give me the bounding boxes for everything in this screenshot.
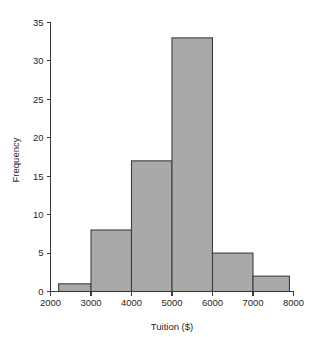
x-tick-label: 2000 — [40, 297, 61, 308]
y-tick-label: 35 — [33, 17, 44, 28]
x-tick-label: 3000 — [80, 297, 101, 308]
y-tick-label: 5 — [38, 247, 43, 258]
histogram-bar — [91, 230, 132, 291]
x-tick-label: 4000 — [121, 297, 142, 308]
y-tick-label: 25 — [33, 94, 44, 105]
histogram-bar — [172, 38, 213, 292]
y-axis-ticks: 05101520253035 — [33, 17, 51, 297]
x-axis-label: Tuition ($) — [151, 321, 193, 332]
y-tick-label: 10 — [33, 209, 44, 220]
histogram-bar — [132, 161, 173, 292]
bars-group — [59, 38, 290, 292]
x-tick-label: 6000 — [202, 297, 223, 308]
y-tick-label: 30 — [33, 55, 44, 66]
histogram-bar — [253, 276, 289, 291]
y-axis-label: Frequency — [10, 137, 21, 182]
histogram-chart: 05101520253035 2000300040005000600070008… — [0, 0, 315, 337]
chart-canvas: 05101520253035 2000300040005000600070008… — [0, 0, 315, 337]
x-tick-label: 7000 — [242, 297, 263, 308]
histogram-bar — [213, 253, 254, 291]
y-tick-label: 20 — [33, 132, 44, 143]
y-tick-label: 15 — [33, 171, 44, 182]
histogram-bar — [59, 284, 91, 292]
x-axis-ticks: 2000300040005000600070008000 — [40, 292, 304, 309]
y-tick-label: 0 — [38, 286, 43, 297]
x-tick-label: 5000 — [161, 297, 182, 308]
x-tick-label: 8000 — [283, 297, 304, 308]
